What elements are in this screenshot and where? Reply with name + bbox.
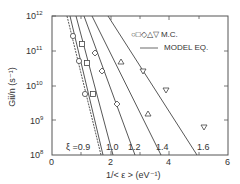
xi-label-1.0: 1.0	[106, 142, 119, 152]
xi-label-0.9: ξ =0.9	[66, 142, 90, 152]
x-tick-4: 4	[166, 157, 171, 167]
y-tick-1e8: 108	[30, 149, 43, 160]
xi-label-1.6: 1.6	[197, 142, 210, 152]
y-tick-1e9: 109	[30, 115, 43, 126]
y-tick-1e10: 1010	[26, 80, 43, 91]
y-axis-title: Gii/n (s⁻¹)	[7, 67, 17, 107]
xi-label-1.2: 1.2	[128, 142, 141, 152]
legend-model: MODEL EQ.	[164, 43, 208, 52]
y-tick-1e12: 1012	[26, 10, 43, 21]
x-axis-title: 1/< ε > (eV⁻¹)	[106, 170, 161, 180]
legend-mc: ○□◇△▽ M.C.	[131, 30, 178, 39]
x-tick-0: 0	[49, 157, 54, 167]
xi-label-1.4: 1.4	[156, 142, 169, 152]
x-tick-2: 2	[108, 157, 113, 167]
y-tick-1e11: 1011	[26, 45, 42, 56]
x-tick-6: 6	[225, 157, 230, 167]
